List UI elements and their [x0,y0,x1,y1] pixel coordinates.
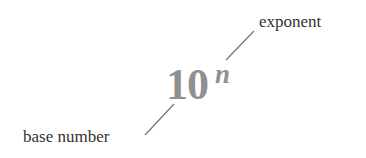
power-expression: 10 n [166,63,208,107]
exponent-value: n [215,61,230,88]
exponent-diagram: 10 n exponent base number [0,0,366,158]
exponent-leader-line [226,31,254,60]
exponent-label: exponent [259,13,321,30]
base-number-value: 10 [166,60,208,109]
base-number-label: base number [23,128,109,145]
